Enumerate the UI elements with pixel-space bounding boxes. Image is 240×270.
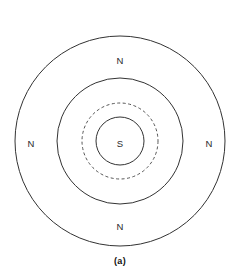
pole-label-north-right: N xyxy=(205,138,212,149)
pole-label-south-center: S xyxy=(117,138,124,149)
pole-label-north-left: N xyxy=(27,138,34,149)
pole-label-north-top: N xyxy=(116,55,123,66)
pole-label-north-bottom: N xyxy=(116,221,123,232)
concentric-circles-diagram: N N N N S (a) xyxy=(0,0,240,270)
figure-caption: (a) xyxy=(114,256,126,266)
figure-container: N N N N S (a) xyxy=(0,0,240,270)
